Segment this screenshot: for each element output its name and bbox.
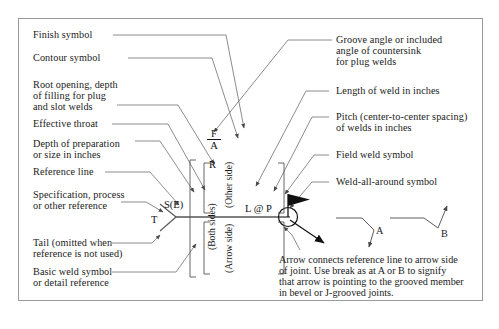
bracket-label-other-side: (Other side) bbox=[223, 162, 234, 208]
symbol-tail-text: T bbox=[151, 214, 157, 225]
label-basic-line2: or detail reference bbox=[33, 277, 109, 288]
label-weld-all-around-symbol: Weld-all-around symbol bbox=[336, 176, 437, 187]
bottom-note-line4: in bevel or J-grooved joints. bbox=[279, 287, 394, 299]
label-spec-line2: or other reference bbox=[33, 200, 107, 211]
label-break-a: A bbox=[376, 225, 383, 236]
label-basic-line1: Basic weld symbol bbox=[33, 266, 112, 277]
bottom-note-line1: Arrow connects reference line to arrow s… bbox=[279, 254, 458, 266]
label-root-opening-line3: and slot welds bbox=[33, 101, 93, 112]
bottom-note-line2: of joint. Use break as at A or B to sign… bbox=[279, 265, 446, 277]
symbol-root-opening: R bbox=[209, 159, 216, 170]
label-field-weld-symbol: Field weld symbol bbox=[336, 149, 414, 160]
label-pitch-line2: of welds in inches bbox=[336, 122, 412, 133]
label-groove-line2: angle of countersink bbox=[336, 45, 421, 56]
bottom-note-line3: that arrow is pointing to the grooved me… bbox=[279, 276, 464, 288]
bracket-label-both-sides: (Both sides) bbox=[206, 203, 217, 250]
label-tail-line1: Tail (omitted when bbox=[33, 237, 112, 248]
welding-symbol-diagram: Finish symbol Contour symbol Root openin… bbox=[0, 0, 499, 329]
label-effective-throat: Effective throat bbox=[33, 118, 98, 129]
label-reference-line: Reference line bbox=[33, 166, 94, 177]
label-groove-line1: Groove angle or included bbox=[336, 34, 442, 45]
symbol-contour: A bbox=[207, 140, 221, 151]
label-groove-line3: for plug welds bbox=[336, 56, 396, 67]
label-break-b: B bbox=[441, 228, 448, 239]
bracket-label-arrow-side: (Arrow side) bbox=[223, 224, 234, 273]
label-depth-line1: Depth of preparation bbox=[33, 138, 120, 149]
label-root-opening-line1: Root opening, depth bbox=[33, 79, 118, 90]
symbol-size-effective-throat: S(E) bbox=[164, 199, 183, 210]
label-root-opening-line2: of filling for plug bbox=[33, 90, 106, 101]
finish-contour-fraction: F A bbox=[207, 128, 221, 151]
label-spec-line1: Specification, process bbox=[33, 189, 125, 200]
label-finish-symbol: Finish symbol bbox=[33, 29, 92, 40]
label-contour-symbol: Contour symbol bbox=[33, 52, 100, 63]
symbol-length-pitch: L @ P bbox=[245, 203, 272, 214]
label-pitch-line1: Pitch (center-to-center spacing) bbox=[336, 111, 467, 122]
symbol-finish: F bbox=[207, 128, 221, 139]
label-depth-line2: or size in inches bbox=[33, 149, 101, 160]
label-tail-line2: reference is not used) bbox=[33, 248, 123, 259]
label-length-of-weld: Length of weld in inches bbox=[336, 85, 440, 96]
